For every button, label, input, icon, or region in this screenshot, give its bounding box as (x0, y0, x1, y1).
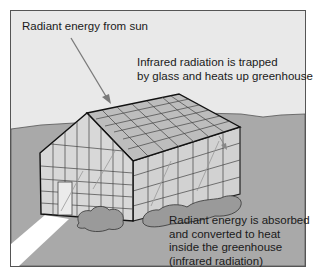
label-absorbed-line-1: Radiant energy is absorbed (169, 214, 310, 228)
door (58, 182, 72, 215)
label-sun: Radiant energy from sun (22, 20, 148, 34)
label-absorbed: Radiant energy is absorbed and converted… (169, 214, 310, 268)
label-infrared-line-2: by glass and heats up greenhouse (137, 70, 313, 84)
label-absorbed-line-2: and converted to heat (169, 228, 310, 242)
label-infrared: Infrared radiation is trapped by glass a… (137, 56, 313, 83)
label-absorbed-line-4: (infrared radiation) (169, 255, 310, 269)
label-sun-line-1: Radiant energy from sun (22, 20, 148, 34)
label-infrared-line-1: Infrared radiation is trapped (137, 56, 313, 70)
label-absorbed-line-3: inside the greenhouse (169, 241, 310, 255)
